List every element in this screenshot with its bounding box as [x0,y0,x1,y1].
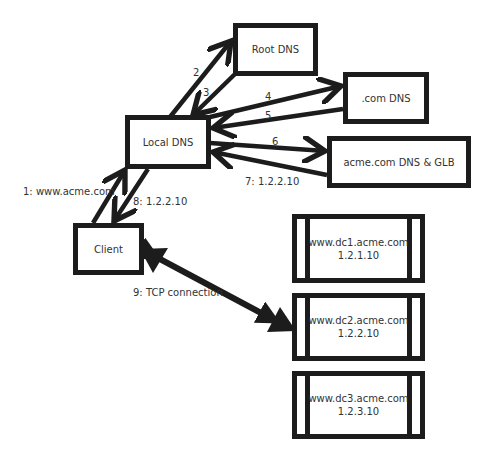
edge-label-5: 5 [265,110,271,121]
server-host: www.dc1.acme.com [297,236,420,249]
acme-dns-label: acme.com DNS & GLB [343,156,454,169]
edge-label-8: 8: 1.2.2.10 [133,196,187,207]
edge-label-1: 1: www.acme.com [23,186,115,197]
acme-dns-glb-node: acme.com DNS & GLB [327,136,471,188]
client-label: Client [94,243,123,256]
edge-label-6: 6 [272,136,278,147]
edge-label-2: 2 [193,67,199,78]
com-dns-node: .com DNS [343,72,429,124]
edge-label-7: 7: 1.2.2.10 [245,176,299,187]
local-dns-label: Local DNS [143,136,194,149]
local-dns-node: Local DNS [125,115,211,169]
edge-label-3: 3 [203,87,209,98]
server-host: www.dc2.acme.com [297,314,420,327]
arrow-7 [213,152,327,175]
arrow-6 [210,143,325,151]
edge-label-9: 9: TCP connection [133,287,223,298]
server-ip: 1.2.2.10 [297,327,420,340]
server-ip: 1.2.3.10 [297,405,420,418]
server-dc1: www.dc1.acme.com 1.2.1.10 [292,214,425,283]
root-dns-node: Root DNS [233,23,318,76]
server-dc3: www.dc3.acme.com 1.2.3.10 [292,371,425,439]
client-node: Client [73,223,144,275]
com-dns-label: .com DNS [361,92,410,105]
edge-label-4: 4 [265,91,271,102]
root-dns-label: Root DNS [252,43,299,56]
server-host: www.dc3.acme.com [297,392,420,405]
server-dc2: www.dc2.acme.com 1.2.2.10 [292,293,425,361]
server-ip: 1.2.1.10 [297,249,420,262]
